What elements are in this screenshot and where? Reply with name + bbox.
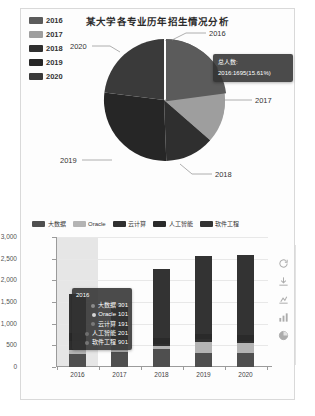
legend-swatch-2020 — [29, 73, 43, 80]
bar-seg-bigdata[interactable] — [237, 353, 254, 367]
pie-svg — [100, 36, 228, 164]
bar-legend-label: 大数据 — [48, 219, 66, 228]
pie-legend-label: 2016 — [46, 17, 63, 25]
legend-swatch-oracle — [73, 221, 86, 227]
bar-seg-bigdata[interactable] — [69, 354, 86, 367]
chart-toolbox — [277, 257, 290, 347]
bar-chart-panel: 大数据 Oracle 云计算 人工智能 软件工程 — [20, 205, 295, 400]
y-axis-line — [56, 237, 57, 367]
bar-seg-bigdata[interactable] — [153, 349, 170, 367]
bar-2020[interactable] — [237, 255, 254, 367]
pie-label-2017: 2017 — [255, 96, 272, 105]
bar-seg-ai[interactable] — [153, 338, 170, 343]
refresh-icon[interactable] — [277, 257, 290, 270]
pie-legend-item-2017[interactable]: 2017 — [29, 28, 63, 41]
bar-seg-oracle[interactable] — [69, 350, 86, 354]
pie-label-2019: 2019 — [60, 156, 77, 165]
legend-swatch-cloud — [113, 221, 126, 227]
tooltip-dot-cloud — [91, 322, 95, 326]
y-tick-label: 2,500 — [0, 255, 17, 262]
bar-tooltip-value: 201 — [118, 329, 128, 338]
pie-legend-item-2016[interactable]: 2016 — [29, 14, 63, 27]
legend-swatch-2017 — [29, 31, 43, 38]
bar-seg-bigdata[interactable] — [111, 352, 128, 367]
bar-legend-item-oracle[interactable]: Oracle — [73, 221, 106, 227]
toolbox-divider — [295, 245, 296, 365]
pie-slice-a-2019[interactable] — [104, 93, 166, 161]
pie-legend-label: 2018 — [46, 45, 63, 53]
pie-legend-item-2018[interactable]: 2018 — [29, 42, 63, 55]
pie-tooltip-line: 2016:1695(15.61%) — [218, 68, 288, 79]
bar-legend-label: 人工智能 — [169, 219, 193, 228]
x-tick-label-2019: 2019 — [184, 371, 224, 378]
pie-tooltip-title: 总人数: — [218, 57, 288, 68]
bar-legend-item-software[interactable]: 软件工程 — [200, 219, 240, 228]
legend-swatch-2019 — [29, 59, 43, 66]
bar-legend-item-cloud[interactable]: 云计算 — [113, 219, 147, 228]
bar-tooltip-row: Oracle 101 — [76, 310, 128, 319]
pie-legend-label: 2020 — [46, 73, 63, 81]
bar-seg-oracle[interactable] — [195, 342, 212, 353]
y-tick-label: 2,000 — [0, 276, 17, 283]
pie-chart-icon[interactable] — [277, 329, 290, 342]
bar-seg-cloud[interactable] — [237, 341, 254, 344]
bar-legend: 大数据 Oracle 云计算 人工智能 软件工程 — [32, 219, 246, 228]
bar-seg-software[interactable] — [153, 269, 170, 338]
y-tick-label: 0 — [0, 363, 17, 370]
bar-legend-label: 软件工程 — [215, 219, 239, 228]
bar-tooltip-name: 大数据 — [98, 301, 116, 310]
bar-tooltip-name: 人工智能 — [92, 329, 116, 338]
bar-legend-label: Oracle — [88, 221, 106, 227]
legend-swatch-software — [200, 221, 213, 227]
legend-swatch-2018 — [29, 45, 43, 52]
download-icon[interactable] — [277, 275, 290, 288]
data-view-icon[interactable] — [277, 293, 290, 306]
bar-seg-software[interactable] — [195, 256, 212, 334]
bar-legend-item-ai[interactable]: 人工智能 — [153, 219, 193, 228]
bar-tooltip-value: 191 — [118, 320, 128, 329]
bar-tooltip-name: 软件工程 — [92, 338, 116, 347]
bar-tooltip-row: 云计算 191 — [76, 320, 128, 329]
bar-2018[interactable] — [153, 269, 170, 367]
y-tick-label: 1,500 — [0, 298, 17, 305]
bar-2019[interactable] — [195, 256, 212, 367]
y-tick-label: 1,000 — [0, 320, 17, 327]
tooltip-dot-software — [85, 341, 89, 345]
pie-legend-item-2020[interactable]: 2020 — [29, 70, 63, 83]
y-tick-label: 3,000 — [0, 233, 17, 240]
y-tick-label: 500 — [0, 341, 17, 348]
bar-legend-item-bigdata[interactable]: 大数据 — [32, 219, 66, 228]
tooltip-dot-ai — [85, 332, 89, 336]
bar-legend-label: 云计算 — [128, 219, 146, 228]
pie-label-2018: 2018 — [215, 170, 232, 179]
bar-seg-oracle[interactable] — [237, 343, 254, 353]
bar-seg-ai[interactable] — [237, 335, 254, 340]
bar-tooltip-value: 101 — [118, 310, 128, 319]
bar-tooltip-row: 人工智能 201 — [76, 329, 128, 338]
pie-label-2020: 2020 — [70, 42, 87, 51]
pie-slice-a-2020[interactable] — [104, 39, 164, 100]
bar-tooltip-name: Oracle — [98, 310, 116, 319]
bar-seg-software[interactable] — [237, 255, 254, 336]
x-tick-label-2018: 2018 — [142, 371, 182, 378]
bar-tooltip-value: 901 — [118, 338, 128, 347]
bar-chart-icon[interactable] — [277, 311, 290, 324]
legend-swatch-bigdata — [32, 221, 45, 227]
pie-tooltip: 总人数: 2016:1695(15.61%) — [213, 54, 293, 82]
bar-seg-oracle[interactable] — [153, 346, 170, 349]
pie-legend-item-2019[interactable]: 2019 — [29, 56, 63, 69]
page-root: 某大学各专业历年招生情况分析 2016 2017 2018 2019 2020 — [0, 0, 315, 416]
bar-seg-cloud[interactable] — [195, 339, 212, 342]
bar-tooltip-row: 大数据 301 — [76, 301, 128, 310]
pie-legend-label: 2019 — [46, 59, 63, 67]
legend-swatch-2016 — [29, 17, 43, 24]
pie-legend-label: 2017 — [46, 31, 63, 39]
tooltip-dot-oracle — [92, 313, 96, 317]
bar-seg-ai[interactable] — [195, 334, 212, 339]
bar-seg-bigdata[interactable] — [195, 353, 212, 367]
pie-graphic[interactable] — [100, 36, 228, 164]
x-tick-label-2020: 2020 — [226, 371, 266, 378]
pie-legend: 2016 2017 2018 2019 2020 — [29, 14, 63, 84]
bar-tooltip-name: 云计算 — [98, 320, 116, 329]
bar-seg-cloud[interactable] — [153, 344, 170, 347]
